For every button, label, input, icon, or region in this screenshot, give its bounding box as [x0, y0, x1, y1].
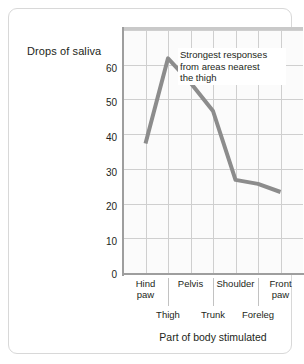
x-axis-labels-top: Hind paw Pelvis Shoulder Front paw: [123, 276, 302, 308]
x-label-front-paw: Front paw: [258, 278, 302, 300]
x-label-pelvis: Pelvis: [168, 278, 213, 289]
x-label-thigh: Thigh: [146, 309, 191, 320]
x-axis-line: [122, 273, 302, 275]
x-label-line-1: Hind: [123, 278, 168, 289]
y-tick-label: 50: [89, 97, 117, 108]
y-tick-label: 60: [89, 63, 117, 74]
x-label-trunk: Trunk: [191, 309, 236, 320]
x-label-foreleg: Foreleg: [236, 309, 281, 320]
y-tick-label: 0: [89, 269, 117, 280]
y-axis-title: Drops of saliva: [27, 45, 101, 57]
x-axis-title: Part of body stimulated: [123, 331, 302, 343]
annotation-line-3: the thigh: [180, 72, 284, 84]
x-label-line-1: Shoulder: [213, 278, 258, 289]
x-label-hind-paw: Hind paw: [123, 278, 168, 300]
y-tick-label: 10: [89, 236, 117, 247]
x-label-line-2: paw: [258, 289, 302, 300]
y-tick-label: 30: [89, 167, 117, 178]
annotation-callout: Strongest responses from areas nearest t…: [178, 48, 286, 85]
x-label-shoulder: Shoulder: [213, 278, 258, 289]
x-axis-labels-bottom: Thigh Trunk Foreleg: [123, 309, 302, 323]
x-label-line-1: Pelvis: [168, 278, 213, 289]
x-label-line-2: paw: [123, 289, 168, 300]
y-tick-label: 20: [89, 201, 117, 212]
annotation-line-2: from areas nearest: [180, 61, 284, 73]
chart-card: Drops of saliva 60 50 40 30 20 10 0 Stro…: [8, 8, 292, 354]
x-label-line-1: Front: [258, 278, 302, 289]
annotation-line-1: Strongest responses: [180, 49, 284, 61]
y-tick-label: 40: [89, 132, 117, 143]
